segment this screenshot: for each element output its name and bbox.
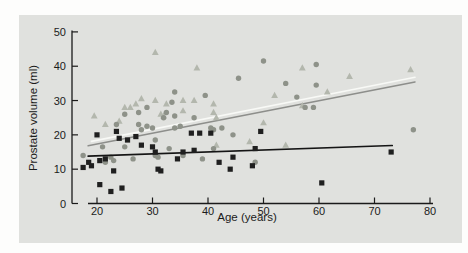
data-point	[127, 104, 134, 110]
data-point	[152, 49, 159, 55]
data-point	[194, 64, 201, 70]
data-point	[192, 148, 197, 153]
data-point	[130, 156, 135, 161]
data-point	[178, 124, 183, 129]
x-tick-label: 80	[424, 205, 436, 217]
data-point	[210, 109, 217, 115]
data-point	[236, 76, 241, 81]
data-point	[155, 154, 160, 159]
data-point	[200, 156, 205, 161]
data-point	[114, 129, 119, 134]
data-point	[111, 158, 116, 163]
data-point	[282, 141, 289, 147]
series-squares	[81, 129, 394, 194]
data-point	[172, 113, 177, 118]
data-point	[271, 92, 278, 98]
data-point	[189, 131, 194, 136]
data-point	[164, 110, 169, 115]
data-point	[161, 115, 166, 120]
data-point	[122, 144, 127, 149]
data-point	[122, 112, 127, 117]
data-point	[203, 93, 208, 98]
data-point	[138, 95, 145, 101]
data-point	[197, 131, 202, 136]
data-point	[102, 121, 109, 127]
data-point	[80, 153, 85, 158]
data-point	[175, 156, 180, 161]
squares-trend	[88, 145, 392, 156]
x-tick-label: 40	[202, 205, 214, 217]
data-point	[108, 189, 113, 194]
series-triangles	[91, 49, 414, 148]
data-point	[208, 131, 213, 136]
data-point	[311, 105, 316, 110]
y-tick-label: 10	[54, 163, 66, 175]
data-point	[230, 155, 235, 160]
data-point	[230, 132, 235, 137]
data-point	[97, 158, 102, 163]
series-circles	[80, 58, 416, 165]
data-point	[163, 100, 170, 106]
data-point	[246, 138, 253, 144]
data-point	[117, 136, 122, 141]
data-point	[283, 81, 288, 86]
data-point	[228, 167, 233, 172]
data-point	[180, 149, 185, 154]
data-point	[166, 146, 171, 151]
data-point	[139, 127, 144, 132]
x-tick-label: 20	[91, 205, 103, 217]
data-point	[172, 125, 177, 130]
data-point	[100, 144, 105, 149]
scatter-plot: 2030405060708001020304050 Age (years) Pr…	[0, 0, 468, 253]
data-point	[191, 97, 198, 103]
data-point	[114, 122, 119, 127]
data-point	[191, 115, 196, 120]
data-point	[125, 137, 130, 142]
data-point	[411, 127, 416, 132]
data-point	[180, 107, 187, 113]
data-point	[153, 149, 158, 154]
data-point	[158, 168, 163, 173]
y-tick-label: 20	[54, 129, 66, 141]
data-point	[81, 165, 86, 170]
x-axis-title: Age (years)	[217, 211, 277, 223]
data-point	[136, 110, 141, 115]
data-point	[153, 137, 158, 142]
data-point	[121, 104, 128, 110]
trend-lines-front	[88, 145, 392, 156]
data-point	[324, 88, 331, 94]
data-point	[150, 125, 155, 130]
y-tick-label: 30	[54, 95, 66, 107]
data-point	[211, 146, 216, 151]
data-point	[144, 124, 149, 129]
data-points-top-layer	[81, 129, 394, 194]
y-axis-title: Prostate volume (ml)	[27, 65, 39, 171]
data-points-layer	[80, 49, 416, 165]
data-point	[119, 185, 124, 190]
data-point	[94, 132, 99, 137]
data-point	[302, 105, 307, 110]
data-point	[260, 119, 267, 125]
data-point	[258, 129, 263, 134]
y-tick-label: 0	[60, 198, 66, 210]
data-point	[407, 66, 414, 72]
data-point	[253, 146, 258, 151]
data-point	[299, 64, 306, 70]
data-point	[97, 182, 102, 187]
data-point	[150, 144, 155, 149]
y-tick-label: 40	[54, 60, 66, 72]
data-point	[314, 62, 319, 67]
data-point	[136, 122, 141, 127]
data-point	[89, 163, 94, 168]
data-point	[261, 58, 266, 63]
x-tick-label: 30	[146, 205, 158, 217]
data-point	[250, 163, 255, 168]
data-point	[103, 156, 108, 161]
data-point	[169, 100, 174, 105]
data-point	[139, 143, 144, 148]
data-point	[319, 180, 324, 185]
data-point	[219, 125, 224, 130]
x-tick-label: 70	[368, 205, 380, 217]
data-point	[210, 100, 217, 106]
data-point	[111, 168, 116, 173]
